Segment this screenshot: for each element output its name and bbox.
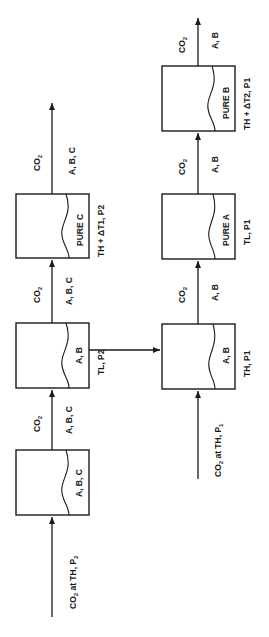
stream-2-solutes: A, B, C xyxy=(64,277,74,305)
bottom-row: CO2 at TH, P1 A, B TH, P1 CO2 A, B PURE … xyxy=(162,18,252,479)
vessel-4-content: A, B xyxy=(221,347,231,364)
stream-1-gas: CO2 xyxy=(32,415,43,432)
feed-label-bottom: CO2 at TH, P1 xyxy=(213,423,224,477)
vessel-6-condition: TH + ΔT2, P1 xyxy=(242,78,252,130)
vessel-6-content: PURE B xyxy=(221,87,231,119)
stream-6-gas: CO2 xyxy=(177,36,188,53)
stream-3-gas: CO2 xyxy=(32,154,43,171)
vessel-4-condition: TH, P1 xyxy=(242,350,252,377)
vessel-2-condition: TL, P2 xyxy=(96,349,106,375)
feed-label-top: CO2 at TH, P2 xyxy=(68,555,79,609)
stream-5-gas: CO2 xyxy=(177,158,188,175)
vessel-5-content: PURE A xyxy=(221,214,231,246)
process-flow-diagram: CO2 at TH, P2 A, B, C CO2 A, B, C A, B T… xyxy=(0,0,269,637)
vessel-4: A, B TH, P1 xyxy=(162,324,252,389)
vessel-2: A, B TL, P2 xyxy=(16,323,106,388)
vessel-5: PURE A TL, P1 xyxy=(162,194,252,259)
vessel-3-condition: TH + ΔT1, P2 xyxy=(96,205,106,257)
stream-6-solutes: A, B xyxy=(210,32,220,49)
stream-2-gas: CO2 xyxy=(32,286,43,303)
vessel-3-content: PURE C xyxy=(75,214,85,246)
vessel-1-content: A, B, C xyxy=(74,469,84,497)
stream-3-solutes: A, B, C xyxy=(67,147,77,175)
vessel-5-condition: TL, P1 xyxy=(242,219,252,245)
vessel-1: A, B, C xyxy=(16,450,89,515)
top-row: CO2 at TH, P2 A, B, C CO2 A, B, C A, B T… xyxy=(16,103,106,617)
vessel-6: PURE B TH + ΔT2, P1 xyxy=(162,66,252,131)
vessel-2-content: A, B xyxy=(74,347,84,364)
vessel-3: PURE C TH + ΔT1, P2 xyxy=(16,194,106,258)
stream-1-solutes: A, B, C xyxy=(64,406,74,434)
stream-5-solutes: A, B xyxy=(210,156,220,173)
stream-4-gas: CO2 xyxy=(177,286,188,303)
stream-4-solutes: A, B xyxy=(210,284,220,301)
